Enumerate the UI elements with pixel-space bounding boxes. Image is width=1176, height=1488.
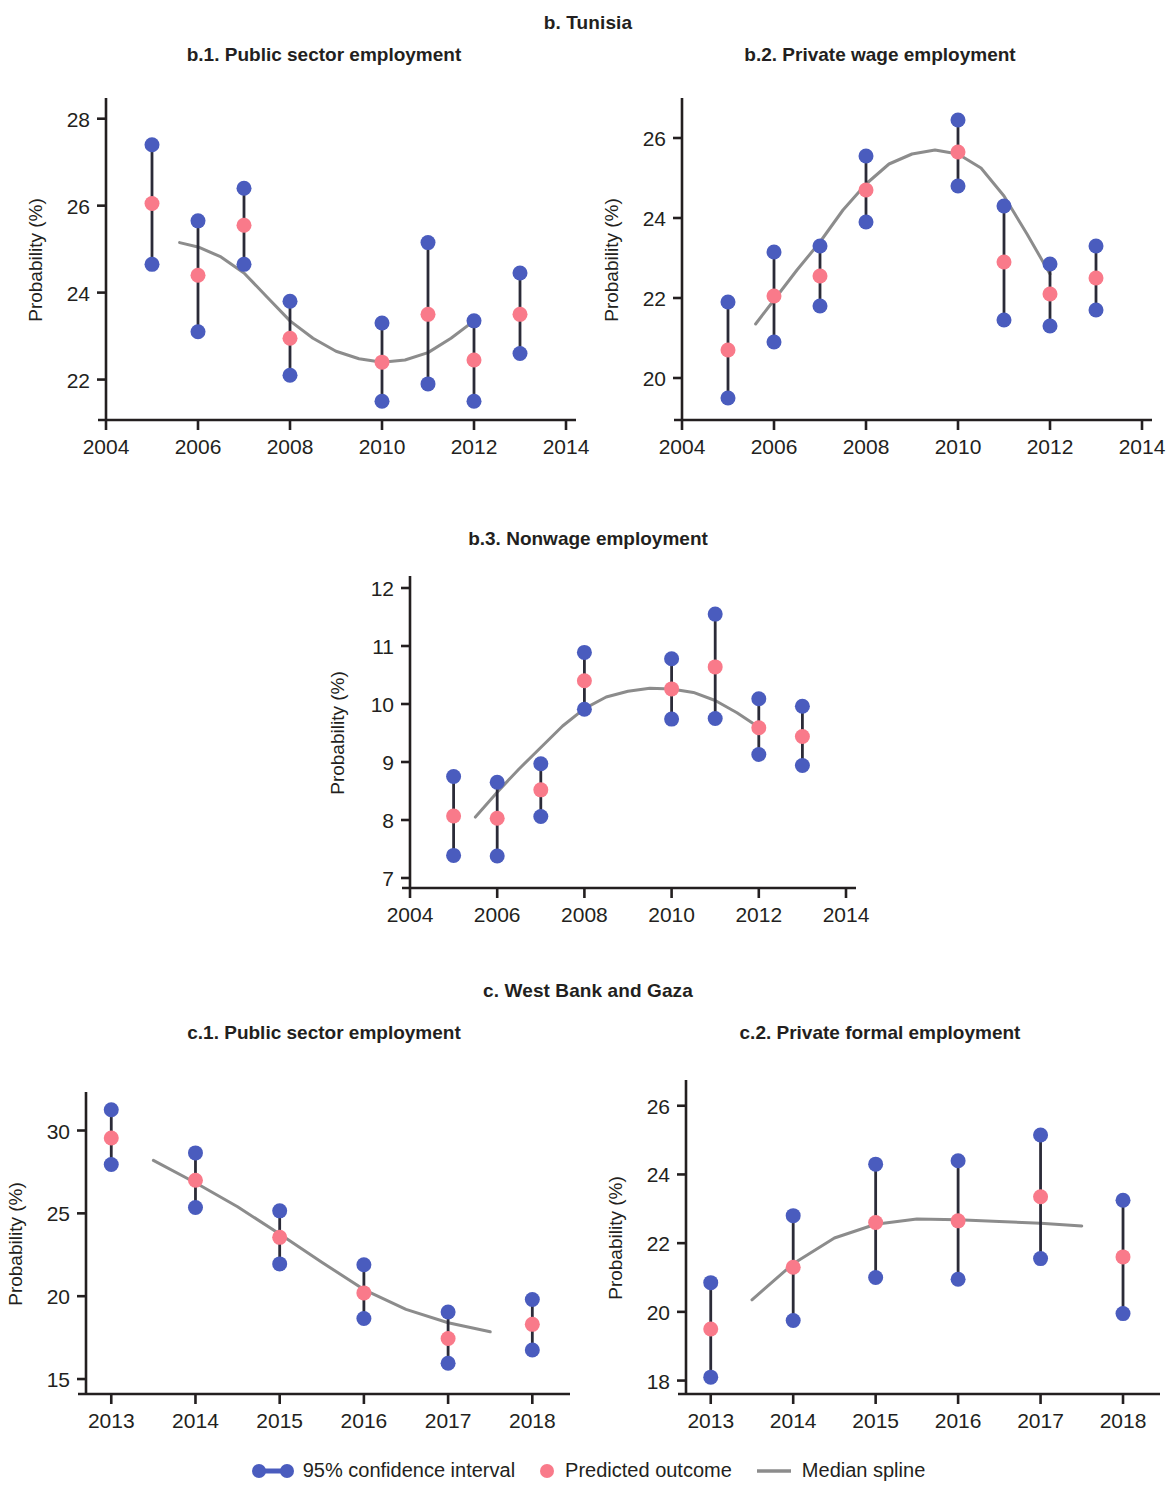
x-tick-label: 2012 xyxy=(451,435,498,458)
x-tick-label: 2010 xyxy=(935,435,982,458)
predicted-outcome-marker xyxy=(1043,287,1058,302)
ci-lower-marker xyxy=(446,848,461,863)
ci-lower-marker xyxy=(577,702,592,717)
data-point-group xyxy=(513,266,528,361)
predicted-outcome-marker xyxy=(795,729,810,744)
data-point-group xyxy=(104,1102,119,1172)
data-point-group xyxy=(767,245,782,350)
ci-upper-marker xyxy=(786,1208,801,1223)
ci-lower-marker xyxy=(104,1157,119,1172)
x-tick-label: 2006 xyxy=(474,903,521,926)
legend-item-predicted-outcome: Predicted outcome xyxy=(537,1459,732,1482)
y-tick-label: 22 xyxy=(647,1232,670,1255)
data-point-group xyxy=(525,1292,540,1358)
predicted-outcome-marker xyxy=(375,355,390,370)
ci-upper-marker xyxy=(795,699,810,714)
data-point-group xyxy=(1089,239,1104,318)
ci-upper-marker xyxy=(997,199,1012,214)
y-tick-label: 8 xyxy=(382,809,394,832)
predicted-outcome-marker xyxy=(859,183,874,198)
data-point-group xyxy=(786,1208,801,1328)
ci-lower-marker xyxy=(356,1311,371,1326)
x-tick-label: 2016 xyxy=(341,1409,388,1432)
data-point-group xyxy=(237,181,252,272)
x-tick-label: 2014 xyxy=(770,1409,817,1432)
ci-upper-marker xyxy=(859,149,874,164)
predicted-outcome-marker xyxy=(272,1230,287,1245)
predicted-outcome-marker xyxy=(356,1285,371,1300)
x-tick-label: 2006 xyxy=(751,435,798,458)
y-tick-label: 20 xyxy=(643,367,666,390)
data-point-group xyxy=(951,1153,966,1287)
y-tick-label: 18 xyxy=(647,1370,670,1393)
x-tick-label: 2013 xyxy=(687,1409,734,1432)
data-point-group xyxy=(703,1275,718,1384)
predicted-outcome-marker xyxy=(191,268,206,283)
predicted-outcome-marker xyxy=(104,1130,119,1145)
ci-upper-marker xyxy=(375,316,390,331)
predicted-outcome-marker xyxy=(767,289,782,304)
data-point-group xyxy=(533,756,548,824)
predicted-outcome-marker xyxy=(441,1331,456,1346)
x-tick-label: 2018 xyxy=(509,1409,556,1432)
chart-svg-b1: 22242628200420062008201020122014Probabil… xyxy=(20,80,580,480)
x-tick-label: 2012 xyxy=(735,903,782,926)
x-tick-label: 2004 xyxy=(83,435,130,458)
y-tick-label: 30 xyxy=(47,1120,70,1143)
confidence-interval-icon xyxy=(251,1461,295,1481)
chart-svg-b3: 789101112200420062008201020122014Probabi… xyxy=(300,564,870,944)
predicted-outcome-marker xyxy=(421,307,436,322)
ci-lower-marker xyxy=(1089,303,1104,318)
ci-upper-marker xyxy=(525,1292,540,1307)
ci-upper-marker xyxy=(533,756,548,771)
ci-lower-marker xyxy=(813,299,828,314)
predicted-outcome-marker xyxy=(446,808,461,823)
ci-lower-marker xyxy=(859,215,874,230)
predicted-outcome-marker xyxy=(283,331,298,346)
data-point-group xyxy=(375,316,390,409)
predicted-outcome-marker xyxy=(467,353,482,368)
x-tick-label: 2016 xyxy=(935,1409,982,1432)
data-point-group xyxy=(283,294,298,383)
ci-upper-marker xyxy=(421,235,436,250)
ci-lower-marker xyxy=(951,179,966,194)
data-point-group xyxy=(145,137,160,272)
ci-upper-marker xyxy=(467,313,482,328)
x-tick-label: 2014 xyxy=(543,435,590,458)
ci-upper-marker xyxy=(441,1304,456,1319)
ci-lower-marker xyxy=(868,1270,883,1285)
predicted-outcome-marker xyxy=(786,1260,801,1275)
ci-upper-marker xyxy=(708,607,723,622)
x-tick-label: 2015 xyxy=(852,1409,899,1432)
predicted-outcome-marker xyxy=(1116,1249,1131,1264)
predicted-outcome-marker xyxy=(664,681,679,696)
ci-lower-marker xyxy=(145,257,160,272)
ci-lower-marker xyxy=(441,1356,456,1371)
ci-lower-marker xyxy=(951,1272,966,1287)
chart-panel-c2: 1820222426201320142015201620172018Probab… xyxy=(600,1058,1170,1448)
x-tick-label: 2014 xyxy=(172,1409,219,1432)
ci-lower-marker xyxy=(708,711,723,726)
data-point-group xyxy=(1043,257,1058,334)
ci-upper-marker xyxy=(951,113,966,128)
data-point-group xyxy=(356,1257,371,1326)
ci-lower-marker xyxy=(272,1256,287,1271)
y-tick-label: 12 xyxy=(371,577,394,600)
ci-lower-marker xyxy=(375,394,390,409)
data-point-group xyxy=(859,149,874,230)
ci-upper-marker xyxy=(188,1145,203,1160)
y-axis-label: Probability (%) xyxy=(25,198,46,322)
predicted-outcome-marker xyxy=(997,255,1012,270)
ci-upper-marker xyxy=(356,1257,371,1272)
x-tick-label: 2014 xyxy=(1119,435,1166,458)
panel-title-c1: c.1. Public sector employment xyxy=(44,1022,604,1044)
x-tick-label: 2010 xyxy=(359,435,406,458)
legend-item-median-spline: Median spline xyxy=(754,1459,925,1482)
chart-panel-b3: 789101112200420062008201020122014Probabi… xyxy=(300,564,870,944)
legend-item-confidence-interval: 95% confidence interval xyxy=(251,1459,515,1482)
ci-lower-marker xyxy=(1033,1251,1048,1266)
x-tick-label: 2008 xyxy=(561,903,608,926)
y-tick-label: 24 xyxy=(647,1163,671,1186)
data-point-group xyxy=(421,235,436,391)
ci-lower-marker xyxy=(467,394,482,409)
